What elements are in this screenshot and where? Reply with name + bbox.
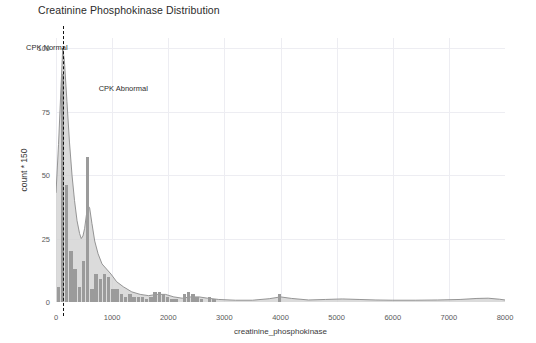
x-axis-title: creatinine_phosphokinase [234, 327, 327, 336]
cpk-normal-threshold-line [63, 26, 64, 316]
y-axis-title: count * 150 [19, 148, 29, 191]
x-axis-tick-label: 6000 [384, 313, 401, 322]
y-axis-tick-label: 0 [12, 298, 50, 307]
x-axis-tick-label: 1000 [104, 313, 121, 322]
x-axis-tick-label: 2000 [160, 313, 177, 322]
axis-labels-layer: CPK NormalCPK Abnormal025507510001000200… [0, 0, 536, 343]
x-axis-tick-label: 8000 [497, 313, 514, 322]
y-axis-tick-label: 75 [12, 107, 50, 116]
annotation-label: CPK Abnormal [99, 84, 148, 93]
y-axis-tick-label: 100 [12, 44, 50, 53]
y-axis-tick-label: 25 [12, 234, 50, 243]
x-axis-tick-label: 5000 [328, 313, 345, 322]
x-axis-tick-label: 0 [54, 313, 58, 322]
x-axis-tick-label: 4000 [272, 313, 289, 322]
x-axis-tick-label: 7000 [441, 313, 458, 322]
x-axis-tick-label: 3000 [216, 313, 233, 322]
chart-root: Creatinine Phosphokinase Distribution CP… [0, 0, 536, 343]
